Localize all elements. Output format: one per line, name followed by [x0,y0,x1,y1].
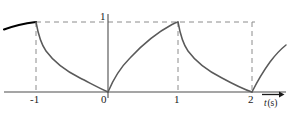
y-tick-label-1: 1 [100,11,106,22]
x-tick-label-2: 2 [248,94,254,105]
curve-decay-first [36,22,108,92]
x-axis-unit: (s) [267,98,277,108]
x-axis-title: t (s) [264,99,277,109]
curve-rise-second [252,45,286,92]
plot-canvas [0,0,290,114]
curve-decay-second [178,22,252,92]
curve-rise-first [108,22,178,92]
x-tick-label-0: 0 [101,94,107,105]
x-tick-label-minus-1: -1 [30,94,39,105]
x-tick-label-1: 1 [174,94,180,105]
waveform-figure: -1 0 1 2 1 t (s) [0,0,290,114]
curve-bold-segment [4,22,36,30]
